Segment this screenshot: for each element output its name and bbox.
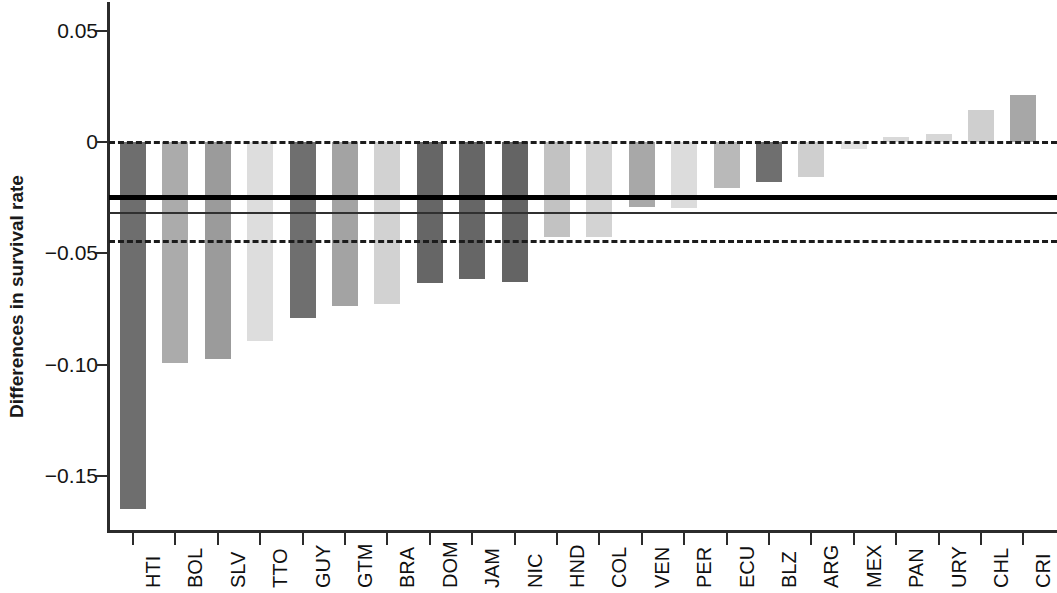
zero-line — [109, 141, 1057, 144]
x-tick-label-cri: CRI — [1032, 554, 1055, 588]
x-tick-label-mex: MEX — [863, 545, 886, 588]
bar-jam[interactable] — [459, 142, 485, 279]
x-tick-label-tto: TTO — [269, 548, 292, 588]
mean-estimate-line — [109, 195, 1057, 200]
x-tick-mark — [429, 533, 431, 545]
bar-guy[interactable] — [290, 142, 316, 318]
x-tick-label-ven: VEN — [651, 547, 674, 588]
x-tick-mark — [1022, 533, 1024, 545]
bar-gtm[interactable] — [332, 142, 358, 306]
y-tick-mark — [96, 252, 107, 254]
x-tick-mark — [853, 533, 855, 545]
x-tick-mark — [217, 533, 219, 545]
x-tick-mark — [259, 533, 261, 545]
x-tick-label-gtm: GTM — [354, 544, 377, 588]
bar-blz[interactable] — [756, 142, 782, 182]
bar-bol[interactable] — [162, 142, 188, 363]
plot-area: HTIBOLSLVTTOGUYGTMBRADOMJAMNICHNDCOLVENP… — [0, 0, 1057, 593]
x-tick-label-bra: BRA — [396, 547, 419, 588]
bar-ecu[interactable] — [714, 142, 740, 188]
bar-slv[interactable] — [205, 142, 231, 359]
bar-arg[interactable] — [798, 142, 824, 177]
bar-chl[interactable] — [968, 110, 994, 142]
y-axis-line — [107, 2, 110, 530]
y-tick-mark — [96, 141, 107, 143]
x-tick-mark — [344, 533, 346, 545]
x-axis-line — [107, 530, 1057, 533]
x-tick-label-hti: HTI — [142, 556, 165, 588]
bar-col[interactable] — [586, 142, 612, 237]
x-tick-mark — [386, 533, 388, 545]
x-tick-label-arg: ARG — [820, 545, 843, 588]
bar-bra[interactable] — [374, 142, 400, 304]
x-tick-mark — [938, 533, 940, 545]
x-tick-mark — [683, 533, 685, 545]
x-tick-mark — [810, 533, 812, 545]
y-tick-mark — [96, 475, 107, 477]
x-tick-mark — [980, 533, 982, 545]
x-tick-label-blz: BLZ — [778, 551, 801, 588]
x-tick-mark — [726, 533, 728, 545]
x-tick-mark — [132, 533, 134, 545]
x-tick-label-dom: DOM — [439, 541, 462, 588]
y-tick-mark — [96, 364, 107, 366]
x-tick-label-hnd: HND — [566, 545, 589, 588]
bar-cri[interactable] — [1010, 95, 1036, 142]
x-tick-label-guy: GUY — [312, 545, 335, 588]
x-tick-label-ury: URY — [948, 546, 971, 588]
x-tick-label-col: COL — [608, 547, 631, 588]
x-tick-mark — [174, 533, 176, 545]
x-tick-label-pan: PAN — [905, 548, 928, 588]
x-tick-label-nic: NIC — [524, 554, 547, 588]
lower-bound-line — [109, 240, 1057, 243]
x-tick-label-jam: JAM — [481, 548, 504, 588]
x-tick-mark — [598, 533, 600, 545]
x-tick-label-ecu: ECU — [736, 546, 759, 588]
x-tick-mark — [302, 533, 304, 545]
x-tick-mark — [514, 533, 516, 545]
x-tick-mark — [556, 533, 558, 545]
bar-hnd[interactable] — [544, 142, 570, 237]
x-tick-mark — [641, 533, 643, 545]
y-tick-mark — [96, 30, 107, 32]
x-tick-mark — [471, 533, 473, 545]
x-tick-label-slv: SLV — [227, 552, 250, 588]
x-tick-label-chl: CHL — [990, 548, 1013, 588]
x-tick-mark — [768, 533, 770, 545]
x-tick-mark — [895, 533, 897, 545]
x-tick-label-bol: BOL — [184, 548, 207, 588]
x-tick-label-per: PER — [693, 547, 716, 588]
bar-chart: Differences in survival rate 0.050−0.05−… — [0, 0, 1057, 593]
secondary-estimate-line — [109, 212, 1057, 214]
